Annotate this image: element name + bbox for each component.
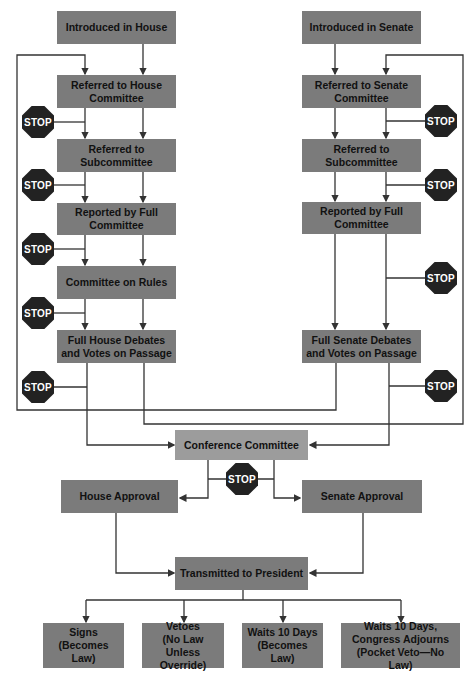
referred-to-senate-committee-box: Referred to Senate Committee xyxy=(302,75,421,108)
full-house-debates-box: Full House Debates and Votes on Passage xyxy=(57,330,176,363)
outcome-vetoes-box: Vetoes (No Law Unless Override) xyxy=(142,623,224,668)
introduced-in-house-box: Introduced in House xyxy=(57,11,176,44)
senate-reported-by-full-committee-box: Reported by Full Committee xyxy=(302,202,421,234)
stop-sign-icon: STOP xyxy=(22,106,54,138)
full-senate-debates-box: Full Senate Debates and Votes on Passage xyxy=(302,330,421,363)
outcome-pocket-veto-box: Waits 10 Days, Congress Adjourns (Pocket… xyxy=(341,623,460,668)
senate-approval-box: Senate Approval xyxy=(302,480,422,513)
house-referred-to-subcommittee-box: Referred to Subcommittee xyxy=(57,139,176,172)
house-reported-by-full-committee-box: Reported by Full Committee xyxy=(57,203,176,235)
outcome-signs-box: Signs (Becomes Law) xyxy=(43,623,124,668)
committee-on-rules-box: Committee on Rules xyxy=(57,266,176,299)
transmitted-to-president-box: Transmitted to President xyxy=(175,557,308,590)
outcome-waits-10-days-box: Waits 10 Days (Becomes Law) xyxy=(242,623,323,668)
senate-referred-to-subcommittee-box: Referred to Subcommittee xyxy=(302,139,421,172)
introduced-in-senate-box: Introduced in Senate xyxy=(302,11,421,44)
conference-committee-box: Conference Committee xyxy=(175,430,308,460)
stop-sign-icon: STOP xyxy=(22,169,54,201)
referred-to-house-committee-box: Referred to House Committee xyxy=(57,75,176,108)
bill-flowchart: Introduced in House Referred to House Co… xyxy=(0,0,469,681)
house-approval-box: House Approval xyxy=(61,480,178,513)
